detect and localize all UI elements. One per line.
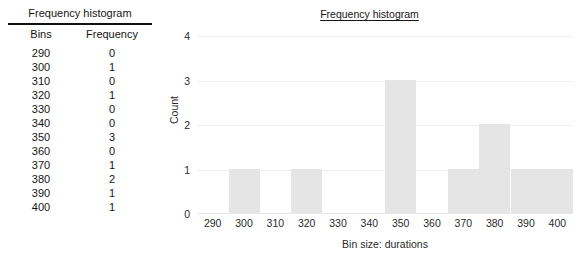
cell-bin: 320 [10,88,72,102]
axis-baseline [197,213,573,214]
cell-frequency: 0 [72,46,152,60]
table-body: 2900300131003201330034003503360037013802… [8,46,152,214]
table-title: Frequency histogram [8,7,152,19]
cell-bin: 300 [10,60,72,74]
histogram-chart-panel: Frequency histogram Count 01234 29030031… [160,0,579,275]
histogram-page: Frequency histogram Bins Frequency 29003… [0,0,579,275]
table-header-row: Bins Frequency [8,28,152,44]
column-header-frequency: Frequency [72,28,152,40]
cell-frequency: 0 [72,74,152,88]
histogram-bar [229,169,260,214]
cell-bin: 290 [10,46,72,60]
cell-frequency: 3 [72,130,152,144]
y-tick-label: 2 [168,120,190,130]
table-row: 2900 [8,46,152,60]
table-row: 3300 [8,102,152,116]
plot-area [197,36,573,214]
histogram-bar [542,169,573,214]
x-axis-title: Bin size: durations [197,238,573,250]
histogram-bar [479,124,510,213]
table-row: 3901 [8,186,152,200]
table-row: 3400 [8,116,152,130]
cell-bin: 380 [10,172,72,186]
cell-frequency: 0 [72,116,152,130]
cell-frequency: 2 [72,172,152,186]
cell-frequency: 0 [72,102,152,116]
column-header-bins: Bins [10,28,72,40]
cell-frequency: 1 [72,60,152,74]
histogram-bar [385,80,416,214]
table-row: 3100 [8,74,152,88]
table-row: 3201 [8,88,152,102]
cell-frequency: 1 [72,158,152,172]
x-axis-ticks: 290300310320330340350360370380390400 [197,216,573,232]
cell-bin: 360 [10,144,72,158]
cell-frequency: 0 [72,144,152,158]
chart-title: Frequency histogram [160,8,579,20]
y-tick-label: 4 [168,31,190,41]
cell-bin: 340 [10,116,72,130]
cell-bin: 330 [10,102,72,116]
y-tick-label: 0 [168,209,190,219]
table-row: 3600 [8,144,152,158]
cell-bin: 350 [10,130,72,144]
cell-bin: 400 [10,200,72,214]
cell-frequency: 1 [72,200,152,214]
frequency-table-panel: Frequency histogram Bins Frequency 29003… [0,0,160,275]
y-axis-ticks: 01234 [168,36,190,214]
histogram-bar [291,169,322,214]
cell-frequency: 1 [72,186,152,200]
cell-bin: 310 [10,74,72,88]
cell-frequency: 1 [72,88,152,102]
table-title-rule [8,23,152,25]
table-row: 3001 [8,60,152,74]
cell-bin: 370 [10,158,72,172]
cell-bin: 390 [10,186,72,200]
histogram-bar [511,169,542,214]
y-tick-label: 3 [168,76,190,86]
table-row: 3503 [8,130,152,144]
histogram-bar [448,169,479,214]
y-tick-label: 1 [168,165,190,175]
gridline [197,36,573,37]
table-row: 4001 [8,200,152,214]
x-tick-label: 400 [537,216,577,230]
table-row: 3802 [8,172,152,186]
table-row: 3701 [8,158,152,172]
